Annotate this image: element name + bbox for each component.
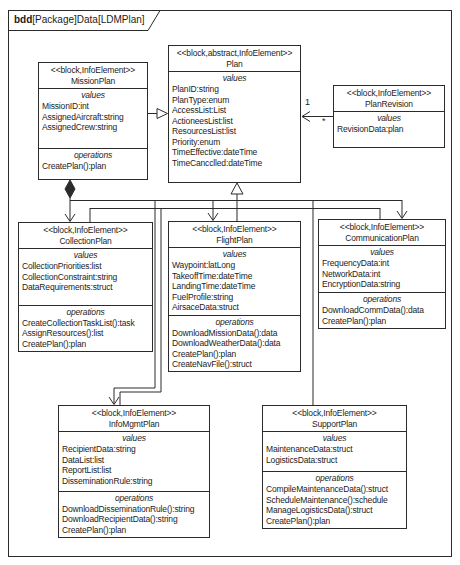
attribute-line: CreatePlan():plan xyxy=(319,316,445,327)
block-stereotype: <<block,InfoElement>> xyxy=(20,225,151,236)
attribute-line: ReportList:list xyxy=(59,465,209,476)
values-compartment: values PlanID:stringPlanType:enumAccessL… xyxy=(169,72,300,182)
attribute-line: CreatePlan():plan xyxy=(169,349,300,360)
attribute-line: NetworkData:int xyxy=(319,269,445,280)
block-name: CollectionPlan xyxy=(20,236,151,247)
attribute-line: DownloadWeatherData():data xyxy=(169,338,300,349)
block-header: <<block,InfoElement>> CollectionPlan xyxy=(19,223,152,249)
values-compartment: values FrequencyData:intNetworkData:intE… xyxy=(319,246,445,293)
attribute-line: DownloadMissionData():data xyxy=(169,328,300,339)
values-compartment: values Waypoint:latLongTakeoffTime:dateT… xyxy=(169,248,300,316)
operations-compartment: operations DownloadMissionData():dataDow… xyxy=(169,316,300,372)
attribute-line: PlanType:enum xyxy=(169,95,300,106)
block-stereotype: <<block,abstract,InfoElement>> xyxy=(170,48,299,59)
frame-title-text: [Package]Data[LDMPlan] xyxy=(32,14,144,25)
block-supportplan[interactable]: <<block,InfoElement>> SupportPlan values… xyxy=(262,405,407,529)
attribute-line: CollectionConstraint:string xyxy=(19,272,152,283)
values-label: values xyxy=(39,90,147,101)
operations-compartment: operations DownloadCommData():dataCreate… xyxy=(319,293,445,328)
block-collectionplan[interactable]: <<block,InfoElement>> CollectionPlan val… xyxy=(18,222,153,352)
generalization-missionplan-plan xyxy=(148,109,168,119)
block-name: FlightPlan xyxy=(170,235,299,246)
block-name: PlanRevision xyxy=(335,99,443,110)
attribute-line: DataList:list xyxy=(59,455,209,466)
block-name: SupportPlan xyxy=(264,419,405,430)
attribute-line: AssignedAircraft:string xyxy=(39,112,147,123)
values-compartment: values RevisionData:plan xyxy=(334,112,444,147)
block-communicationplan[interactable]: <<block,InfoElement>> CommunicationPlan … xyxy=(318,219,446,329)
attribute-line: DownloadCommData():data xyxy=(319,305,445,316)
attribute-line: TimeCancclled:dateTime xyxy=(169,158,300,169)
attribute-line: ActioneesList:list xyxy=(169,116,300,127)
values-label: values xyxy=(59,433,209,444)
block-stereotype: <<block,InfoElement>> xyxy=(264,408,405,419)
attribute-line: LogisticsData:struct xyxy=(263,455,406,466)
values-compartment: values MaintenanceData:structLogisticsDa… xyxy=(263,432,406,472)
attribute-line: AirsaceData:struct xyxy=(169,302,300,313)
block-missionplan[interactable]: <<block,InfoElement>> MissionPlan values… xyxy=(38,62,148,180)
attribute-line: AssignedCrew:string xyxy=(39,122,147,133)
attribute-line: MaintenanceData:struct xyxy=(263,444,406,455)
block-planrevision[interactable]: <<block,InfoElement>> PlanRevision value… xyxy=(333,85,445,148)
operations-label: operations xyxy=(59,493,209,504)
multiplicity-revision-end: * xyxy=(322,116,326,126)
attribute-line: CreatePlan():plan xyxy=(39,161,147,172)
values-compartment: values MissionID:intAssignedAircraft:str… xyxy=(39,89,147,149)
block-stereotype: <<block,InfoElement>> xyxy=(40,65,146,76)
attribute-line: DataRequirements:struct xyxy=(19,282,152,293)
values-label: values xyxy=(334,113,444,124)
block-header: <<block,abstract,InfoElement>> Plan xyxy=(169,46,300,72)
open-arrowhead-collectionplan xyxy=(65,214,75,222)
association-plan-planrevision xyxy=(302,112,333,122)
block-name: InfoMgmtPlan xyxy=(60,419,208,430)
operations-label: operations xyxy=(169,317,300,328)
attribute-line: CreateCollectionTaskList():task xyxy=(19,318,152,329)
values-compartment: values RecipientData:stringDataList:list… xyxy=(59,432,209,492)
values-compartment: values CollectionPriorities:listCollecti… xyxy=(19,249,152,306)
operations-label: operations xyxy=(263,473,406,484)
operations-compartment: operations CompileMaintenanceData():stru… xyxy=(263,472,406,528)
diagram-canvas: bdd[Package]Data[LDMPlan] <<block,InfoEl… xyxy=(0,0,460,565)
attribute-line: ScheduleMaintenance():schedule xyxy=(263,495,406,506)
operations-label: operations xyxy=(39,150,147,161)
operations-label: operations xyxy=(19,307,152,318)
attribute-line: DisseminationRule:string xyxy=(59,476,209,487)
block-infomgmtplan[interactable]: <<block,InfoElement>> InfoMgmtPlan value… xyxy=(58,405,210,538)
block-stereotype: <<block,InfoElement>> xyxy=(320,222,444,233)
attribute-line: DownloadDisseminationRule():string xyxy=(59,504,209,515)
block-flightplan[interactable]: <<block,InfoElement>> FlightPlan values … xyxy=(168,221,301,372)
block-header: <<block,InfoElement>> SupportPlan xyxy=(263,406,406,432)
block-header: <<block,InfoElement>> MissionPlan xyxy=(39,63,147,89)
multiplicity-plan-end: 1 xyxy=(305,97,310,107)
attribute-line: CreatePlan():plan xyxy=(263,516,406,527)
values-label: values xyxy=(169,249,300,260)
operations-compartment: operations CreateCollectionTaskList():ta… xyxy=(19,306,152,352)
attribute-line: ManageLogisticsData():struct xyxy=(263,505,406,516)
values-label: values xyxy=(263,433,406,444)
block-stereotype: <<block,InfoElement>> xyxy=(335,88,443,99)
attribute-line: AccessList:List xyxy=(169,105,300,116)
values-label: values xyxy=(319,247,445,258)
attribute-line: AssignResources():list xyxy=(19,328,152,339)
block-header: <<block,InfoElement>> InfoMgmtPlan xyxy=(59,406,209,432)
open-arrowhead-communicationplan xyxy=(397,211,407,219)
attribute-line: CompileMaintenanceData():struct xyxy=(263,484,406,495)
attribute-line: CreatePlan():plan xyxy=(59,525,209,536)
attribute-line: FuelProfile:string xyxy=(169,292,300,303)
attribute-line: MissionID:int xyxy=(39,101,147,112)
block-stereotype: <<block,InfoElement>> xyxy=(170,224,299,235)
values-label: values xyxy=(19,250,152,261)
attribute-line: TakeoffTime:dateTime xyxy=(169,271,300,282)
attribute-line: EncryptionData:string xyxy=(319,279,445,290)
attribute-line: RevisionData:plan xyxy=(334,124,444,135)
attribute-line: Priority:enum xyxy=(169,137,300,148)
attribute-line: CreateNavFile():struct xyxy=(169,359,300,370)
frame-title: bdd[Package]Data[LDMPlan] xyxy=(14,14,145,25)
frame-title-keyword: bdd xyxy=(14,14,32,25)
block-plan[interactable]: <<block,abstract,InfoElement>> Plan valu… xyxy=(168,45,301,183)
open-arrowhead-infomgmtplan xyxy=(109,397,119,405)
attribute-line: ResourcesList:list xyxy=(169,126,300,137)
block-stereotype: <<block,InfoElement>> xyxy=(60,408,208,419)
block-name: Plan xyxy=(170,59,299,70)
block-header: <<block,InfoElement>> PlanRevision xyxy=(334,86,444,112)
